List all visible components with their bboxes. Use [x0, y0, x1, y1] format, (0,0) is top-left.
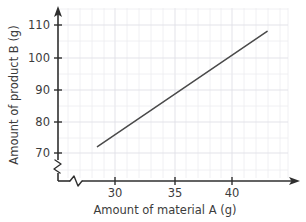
y-tick-label-100: 100: [28, 51, 50, 65]
line-chart: 110 100 90 80 70 30 35 40 Amount of mate…: [0, 0, 306, 222]
y-tick-label-80: 80: [35, 115, 50, 129]
data-series-line: [97, 31, 267, 146]
y-tick-label-110: 110: [28, 18, 50, 32]
grid-vertical-minor: [68, 8, 288, 178]
x-tick-label-40: 40: [225, 186, 240, 200]
y-axis-title: Amount of product B (g): [7, 25, 21, 164]
x-tick-label-30: 30: [108, 186, 123, 200]
x-tick-label-35: 35: [168, 186, 183, 200]
y-tick-label-90: 90: [35, 83, 50, 97]
y-tick-label-70: 70: [35, 146, 50, 160]
grid-horizontal-major: [58, 25, 288, 153]
x-axis-title: Amount of material A (g): [93, 203, 236, 217]
grid-horizontal-minor: [58, 9, 288, 170]
grid-vertical-major: [115, 8, 232, 178]
chart-canvas: 110 100 90 80 70 30 35 40 Amount of mate…: [0, 0, 306, 222]
y-axis-break-icon: [54, 160, 61, 173]
